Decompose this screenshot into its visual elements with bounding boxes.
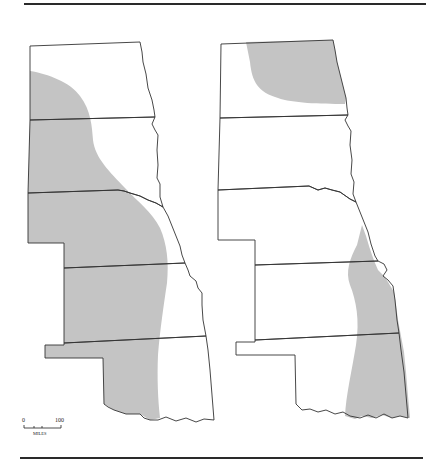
scale-unit-label: MILES xyxy=(33,431,47,436)
left-map xyxy=(28,42,214,422)
right-map xyxy=(218,40,410,419)
left-shaded-region xyxy=(28,71,168,420)
maps-canvas: 0 100 MILES xyxy=(0,0,442,472)
scale-start-label: 0 xyxy=(22,417,25,423)
scale-bar-line xyxy=(24,425,61,428)
scale-bar: 0 100 MILES xyxy=(22,417,64,436)
scale-end-label: 100 xyxy=(55,417,64,423)
right-shaded-ndakota xyxy=(246,40,346,104)
right-shaded-eastern-band xyxy=(345,225,410,419)
